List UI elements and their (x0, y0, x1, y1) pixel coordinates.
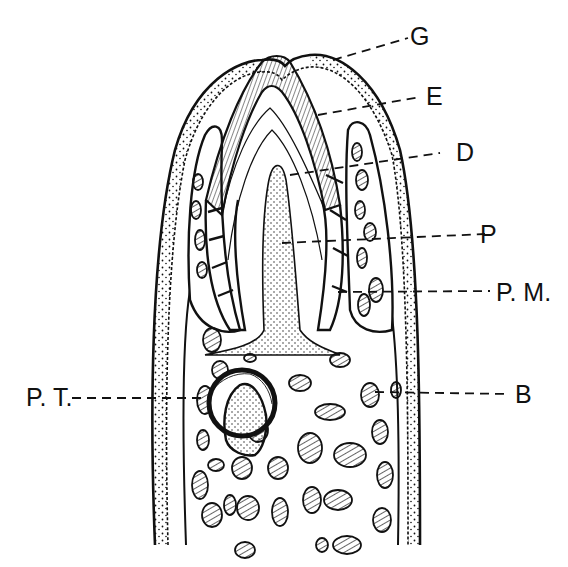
label-b: B (515, 382, 532, 407)
label-d: D (456, 140, 474, 165)
label-pm: P. M. (496, 280, 551, 305)
tooth-section-diagram (0, 0, 568, 567)
label-p: P (480, 222, 497, 247)
label-pt: P. T. (26, 385, 72, 410)
label-e: E (426, 84, 443, 109)
label-g: G (410, 24, 429, 49)
